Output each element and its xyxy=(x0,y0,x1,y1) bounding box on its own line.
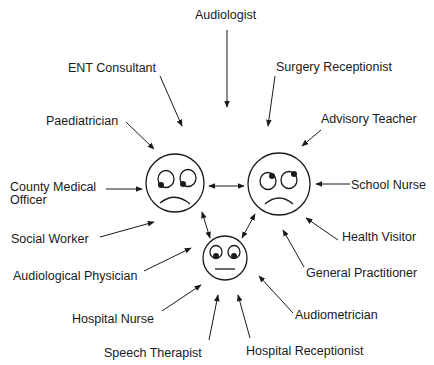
arrow-ent-consultant xyxy=(160,76,182,126)
label-hospital-receptionist: Hospital Receptionist xyxy=(246,344,363,358)
label-paediatrician: Paediatrician xyxy=(46,114,118,128)
label-audiological-physician: Audiological Physician xyxy=(13,269,137,283)
label-school-nurse: School Nurse xyxy=(351,178,426,192)
label-county-medical-officer-line2: Officer xyxy=(10,193,47,207)
label-surgery-receptionist: Surgery Receptionist xyxy=(276,60,392,74)
arrow-general-practitioner xyxy=(283,230,304,267)
label-speech-therapist: Speech Therapist xyxy=(104,346,202,360)
label-social-worker: Social Worker xyxy=(11,232,89,246)
arrow-hospital-receptionist xyxy=(238,295,250,338)
double-arrow-parent2-child xyxy=(242,214,255,238)
face-child xyxy=(203,236,247,280)
double-arrow-parent1-child xyxy=(202,212,210,238)
arrow-paediatrician xyxy=(126,122,154,149)
label-county-medical-officer-line1: County Medical xyxy=(10,180,96,194)
arrow-audiological-physician xyxy=(144,248,191,271)
label-audiologist: Audiologist xyxy=(195,8,256,22)
arrow-surgery-receptionist xyxy=(268,76,275,126)
professionals-diagram: Audiologist ENT Consultant Surgery Recep… xyxy=(0,0,434,365)
arrow-advisory-teacher xyxy=(302,130,321,146)
label-general-practitioner: General Practitioner xyxy=(306,266,417,280)
arrow-audiometrician xyxy=(259,276,293,313)
arrow-speech-therapist xyxy=(209,295,218,340)
label-health-visitor: Health Visitor xyxy=(342,230,416,244)
label-hospital-nurse: Hospital Nurse xyxy=(72,312,154,326)
label-audiometrician: Audiometrician xyxy=(295,308,378,322)
arrow-social-worker xyxy=(100,222,154,237)
arrow-health-visitor xyxy=(306,218,338,240)
arrow-hospital-nurse xyxy=(162,285,201,311)
face-parent-2 xyxy=(248,153,310,215)
face-parent-1 xyxy=(146,154,204,212)
label-advisory-teacher: Advisory Teacher xyxy=(321,112,417,126)
label-ent-consultant: ENT Consultant xyxy=(68,61,156,75)
